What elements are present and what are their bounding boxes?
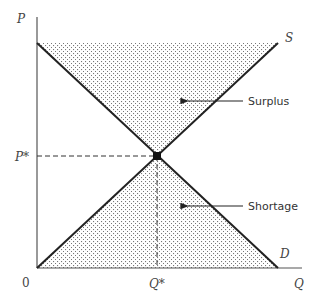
x-axis-label: Q — [294, 277, 304, 291]
surplus-region — [37, 43, 278, 156]
equilibrium-quantity-label: Q* — [149, 277, 165, 291]
equilibrium-point — [153, 152, 161, 160]
surplus-label: Surplus — [248, 95, 289, 108]
shortage-label: Shortage — [248, 200, 298, 213]
supply-label: S — [285, 31, 293, 45]
origin-label: 0 — [22, 276, 30, 290]
supply-demand-diagram: P Q 0 S D P* Q* Surplus Shortage — [0, 0, 318, 302]
demand-label: D — [279, 247, 290, 261]
equilibrium-price-label: P* — [14, 150, 29, 164]
y-axis-label: P — [16, 12, 26, 26]
